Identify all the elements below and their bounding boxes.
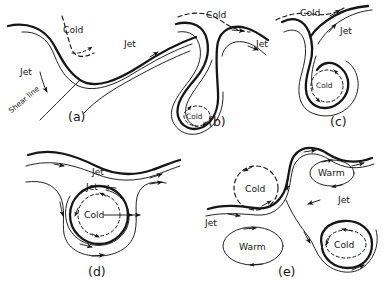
jet-arrow-e2 [304, 150, 316, 152]
panel-a: Cold Jet Jet Shear line (a) [7, 16, 196, 124]
panel-c: Cold Jet Cold (c) [276, 6, 372, 129]
streamline-c1 [284, 30, 358, 116]
label-jet-left-a: Jet [19, 66, 32, 77]
panel-caption-a: (a) [68, 109, 85, 124]
panel-d: Jet Jet Cold (d) [26, 152, 180, 279]
label-jet-b: Jet [255, 38, 268, 49]
label-cold-a: Cold [63, 24, 83, 35]
rotation-arrow-d1 [100, 193, 106, 196]
rotation-arrow-c2 [316, 98, 320, 102]
shear-arrow-a [40, 72, 47, 92]
jet-arrow-c-up [329, 24, 336, 32]
warm-rot-e3 [244, 228, 256, 229]
panel-b: Cold Jet Cold (b) [171, 9, 268, 135]
jet-arrow-e3 [352, 163, 364, 166]
label-shear-line-a: Shear line [7, 84, 42, 115]
panel-caption-b: (b) [208, 114, 226, 129]
panel-caption-c: (c) [330, 114, 347, 129]
cold-arrow-tail-a [72, 47, 92, 53]
label-warm-lower-left-e: Warm [239, 241, 266, 252]
label-cold-upper-left-e: Cold [245, 183, 265, 194]
label-jet-c: Jet [339, 25, 352, 36]
streamline-inner-a [22, 32, 192, 89]
label-cold-d: Cold [84, 209, 104, 220]
jet-arrow-e7 [308, 200, 320, 204]
label-cold-lower-right-e: Cold [334, 239, 354, 250]
label-jet-right-e: Jet [337, 194, 350, 205]
label-cold-inner-c: Cold [316, 81, 333, 90]
label-cold-b: Cold [206, 9, 226, 20]
jet-arrow-b-top [232, 30, 244, 31]
label-warm-upper-right-e: Warm [318, 167, 345, 178]
cut-off-low-figure: Cold Jet Jet Shear line (a) Cold Jet Col… [0, 0, 384, 287]
label-jet-lower-d: Jet [85, 181, 98, 192]
rotation-arrow-c1 [334, 70, 338, 74]
label-cold-c: Cold [300, 7, 320, 18]
jet-core-c [282, 19, 348, 108]
label-cold-inner-b: Cold [186, 112, 203, 121]
label-jet-left-e: Jet [204, 217, 217, 228]
label-jet-upper-d: Jet [91, 166, 104, 177]
cold-boundary-a [62, 16, 94, 56]
panel-caption-e: (e) [278, 264, 295, 279]
panel-caption-d: (d) [88, 264, 106, 279]
rotation-arrow-d3 [75, 208, 78, 216]
panel-e: Cold Warm Warm Cold Jet Jet (e) [204, 148, 377, 279]
label-jet-right-a: Jet [123, 38, 136, 49]
